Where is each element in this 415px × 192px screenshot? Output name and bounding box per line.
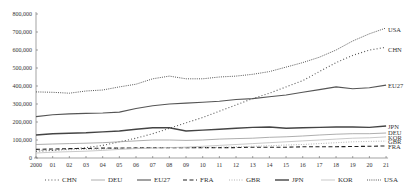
y-tick-label: 100,000 xyxy=(13,137,33,143)
legend-item-eu27: EU27 xyxy=(137,176,171,184)
x-tick-label: 11 xyxy=(216,162,222,168)
x-tick-label: 17 xyxy=(316,162,322,168)
legend-item-gbr: GBR xyxy=(229,176,261,184)
legend-item-jpn: JPN xyxy=(275,176,304,184)
legend: CHNDEUEU27FRAGBRJPNKORUSA xyxy=(45,176,398,184)
y-tick-label: 400,000 xyxy=(13,83,33,89)
x-tick-label: 13 xyxy=(250,162,256,168)
x-tick-label: 05 xyxy=(116,162,122,168)
y-tick-label: 500,000 xyxy=(13,65,33,71)
svg-text:USA: USA xyxy=(384,176,398,184)
svg-text:EU27: EU27 xyxy=(154,176,171,184)
end-label-usa: USA xyxy=(388,26,401,33)
legend-item-usa: USA xyxy=(367,176,398,184)
legend-item-kor: KOR xyxy=(321,176,353,184)
x-tick-label: 2000 xyxy=(30,162,42,168)
series-line-usa xyxy=(36,28,386,93)
x-tick-label: 15 xyxy=(283,162,289,168)
line-chart: 0100,000200,000300,000400,000500,000600,… xyxy=(0,0,415,192)
end-label-chn: CHN xyxy=(388,46,402,53)
y-tick-label: 300,000 xyxy=(13,101,33,107)
x-tick-label: 09 xyxy=(183,162,189,168)
end-label-eu27: EU27 xyxy=(388,82,404,89)
x-tick-label: 20 xyxy=(366,162,372,168)
end-labels: USACHNEU27JPNDEUKORGBRFRA xyxy=(388,26,404,150)
x-tick-label: 04 xyxy=(100,162,106,168)
end-label-fra: FRA xyxy=(388,143,401,150)
x-tick-label: 07 xyxy=(150,162,156,168)
x-tick-label: 10 xyxy=(200,162,206,168)
x-tick-label: 21 xyxy=(383,162,389,168)
x-tick-label: 12 xyxy=(233,162,239,168)
series-lines xyxy=(36,28,386,153)
y-tick-label: 200,000 xyxy=(13,119,33,125)
svg-text:DEU: DEU xyxy=(108,176,122,184)
legend-item-fra: FRA xyxy=(183,176,214,184)
svg-text:FRA: FRA xyxy=(200,176,214,184)
series-line-eu27 xyxy=(36,85,386,117)
x-tick-label: 03 xyxy=(83,162,89,168)
x-tick-label: 19 xyxy=(350,162,356,168)
x-axis: 2000010203040506070809101112131415161718… xyxy=(30,156,389,168)
svg-text:GBR: GBR xyxy=(246,176,261,184)
y-tick-label: 800,000 xyxy=(13,11,33,17)
x-tick-label: 08 xyxy=(166,162,172,168)
y-tick-label: 700,000 xyxy=(13,29,33,35)
x-tick-label: 06 xyxy=(133,162,139,168)
y-tick-label: 600,000 xyxy=(13,47,33,53)
legend-item-deu: DEU xyxy=(91,176,122,184)
x-tick-label: 16 xyxy=(300,162,306,168)
series-line-jpn xyxy=(36,126,386,135)
svg-text:CHN: CHN xyxy=(62,176,77,184)
y-axis: 0100,000200,000300,000400,000500,000600,… xyxy=(13,11,39,161)
x-tick-label: 01 xyxy=(50,162,56,168)
svg-text:KOR: KOR xyxy=(338,176,353,184)
y-tick-label: 0 xyxy=(29,155,32,161)
x-tick-label: 14 xyxy=(266,162,272,168)
legend-item-chn: CHN xyxy=(45,176,77,184)
x-tick-label: 02 xyxy=(66,162,72,168)
series-line-chn xyxy=(36,47,386,151)
svg-text:JPN: JPN xyxy=(292,176,304,184)
x-tick-label: 18 xyxy=(333,162,339,168)
